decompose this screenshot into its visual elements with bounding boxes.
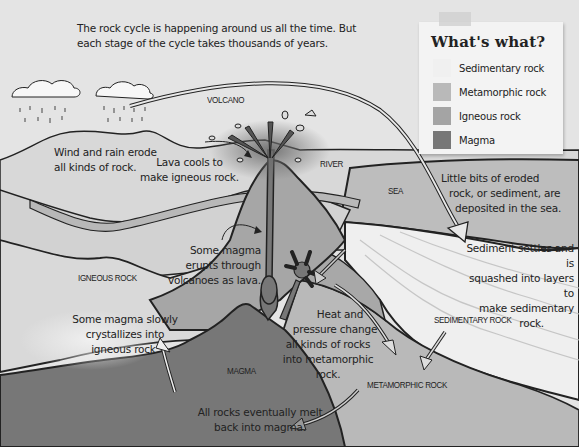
annotation-line: rock, or sediment, are: [441, 186, 561, 201]
label-river: RIVER: [320, 158, 343, 169]
annotation-line: rock.: [466, 316, 574, 331]
legend-label: Igneous rock: [459, 111, 521, 122]
annotation-heat-pressure: Heat and pressure change all kinds of ro…: [278, 307, 378, 382]
intro-text: The rock cycle is happening around us al…: [77, 21, 356, 51]
annotation-sediment-settles: Sediment settles and is squashed into la…: [466, 241, 574, 331]
legend-label: Magma: [459, 135, 495, 146]
annotation-line: Heat and: [278, 307, 378, 322]
annotation-deposited: Little bits of eroded rock, or sediment,…: [441, 171, 561, 216]
intro-line: each stage of the cycle takes thousands …: [77, 36, 356, 51]
annotation-line: rock.: [278, 367, 378, 382]
annotation-crystallizes: Some magma slowly crystallizes into igne…: [70, 312, 180, 357]
swatch-magma: [433, 131, 451, 149]
legend-label: Sedimentary rock: [459, 63, 544, 74]
annotation-line: erupts through: [165, 258, 261, 273]
annotation-line: into metamorphic: [278, 352, 378, 367]
intro-line: The rock cycle is happening around us al…: [77, 21, 356, 36]
label-magma: MAGMA: [227, 365, 256, 376]
tape-decoration: [439, 12, 471, 26]
annotation-line: igneous rock.: [70, 342, 180, 357]
legend-title: What's what?: [431, 33, 545, 51]
label-metamorphic-rock: METAMORPHIC ROCK: [367, 379, 447, 390]
legend-item-magma: Magma: [433, 131, 495, 149]
legend-item-igneous: Igneous rock: [433, 107, 521, 125]
annotation-line: crystallizes into: [70, 327, 180, 342]
legend-label: Metamorphic rock: [459, 87, 546, 98]
label-igneous-rock: IGNEOUS ROCK: [78, 272, 137, 283]
legend-card: What's what? Sedimentary rock Metamorphi…: [419, 22, 563, 154]
annotation-line: all kinds of rocks: [278, 337, 378, 352]
annotation-line: deposited in the sea.: [441, 201, 561, 216]
swatch-sedimentary: [433, 59, 451, 77]
annotation-line: pressure change: [278, 322, 378, 337]
annotation-melt: All rocks eventually melt back into magm…: [195, 405, 325, 435]
annotation-line: make igneous rock.: [140, 170, 239, 185]
rock-cycle-diagram: The rock cycle is happening around us al…: [0, 0, 579, 447]
label-sea: SEA: [388, 185, 403, 196]
legend-item-sedimentary: Sedimentary rock: [433, 59, 544, 77]
annotation-line: back into magma.: [195, 420, 325, 435]
annotation-line: Sediment settles and is: [466, 241, 574, 271]
swatch-igneous: [433, 107, 451, 125]
annotation-line: Little bits of eroded: [441, 171, 561, 186]
annotation-lava-cools: Lava cools to make igneous rock.: [140, 155, 239, 185]
annotation-line: Some magma: [165, 243, 261, 258]
annotation-line: All rocks eventually melt: [195, 405, 325, 420]
annotation-erupts: Some magma erupts through volcanoes as l…: [165, 243, 261, 288]
annotation-line: Some magma slowly: [70, 312, 180, 327]
annotation-line: make sedimentary: [466, 301, 574, 316]
legend-item-metamorphic: Metamorphic rock: [433, 83, 546, 101]
annotation-line: Lava cools to: [140, 155, 239, 170]
swatch-metamorphic: [433, 83, 451, 101]
annotation-line: squashed into layers to: [466, 271, 574, 301]
label-volcano: VOLCANO: [207, 94, 244, 105]
annotation-line: volcanoes as lava.: [165, 273, 261, 288]
